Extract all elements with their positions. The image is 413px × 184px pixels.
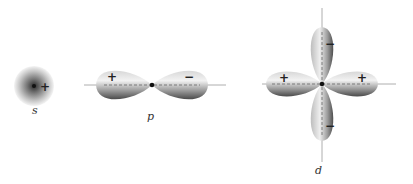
d-sign-left: +: [279, 71, 289, 85]
p-orbital: + −: [84, 70, 226, 99]
d-sign-right: +: [357, 71, 367, 85]
s-orbital-label: s: [32, 104, 38, 117]
s-sign-plus: +: [40, 80, 50, 94]
d-orbital-label: d: [315, 164, 322, 177]
p-orbital-label: p: [147, 110, 154, 123]
s-nucleus: [32, 84, 36, 88]
p-sign-minus: −: [184, 70, 194, 84]
d-nucleus: [320, 82, 325, 87]
d-sign-bottom: −: [325, 119, 335, 133]
orbital-diagram: + + − + + − −: [0, 0, 413, 184]
d-sign-top: −: [325, 37, 335, 51]
d-lobe-top: [311, 27, 334, 84]
d-orbital: + + − −: [262, 8, 396, 162]
s-orbital: +: [14, 66, 54, 106]
p-sign-plus: +: [107, 70, 117, 84]
p-nucleus: [150, 83, 155, 88]
